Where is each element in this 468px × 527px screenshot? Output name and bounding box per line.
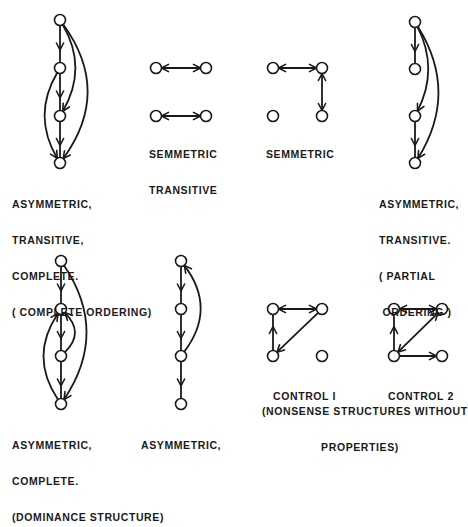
graph-node: [268, 304, 279, 315]
graph-node: [176, 351, 187, 362]
label-line: TRANSITIVE,: [12, 234, 152, 246]
graph-symmetric-transitive: [151, 63, 212, 122]
label-symmetric: SEMMETRIC: [266, 124, 334, 172]
label-line: SEMMETRIC: [266, 148, 334, 160]
graph-node: [410, 111, 421, 122]
graph-node: [317, 111, 328, 122]
label-line: ASYMMETRIC,: [141, 439, 221, 451]
label-complete-ordering: ASYMMETRIC, TRANSITIVE, COMPLETE. ( COMP…: [12, 174, 152, 330]
edge-curve: [63, 24, 87, 158]
graph-node: [410, 158, 421, 169]
graph-node: [317, 63, 328, 74]
caption-line: PROPERTIES): [262, 441, 458, 453]
graph-node: [410, 64, 421, 75]
label-line: ORDERING ): [379, 306, 459, 318]
label-line: TRANSITIVE: [149, 184, 217, 196]
graph-node: [437, 351, 448, 362]
graph-node: [56, 351, 67, 362]
label-line: ASYMMETRIC,: [379, 198, 459, 210]
graph-complete-ordering: [45, 15, 88, 169]
label-line: ( PARTIAL: [379, 270, 459, 282]
graph-node: [410, 17, 421, 28]
graph-node: [151, 63, 162, 74]
graph-node: [55, 111, 66, 122]
label-asymmetric: ASYMMETRIC,: [141, 415, 221, 463]
label-line: SEMMETRIC: [149, 148, 217, 160]
graph-node: [268, 63, 279, 74]
footer-caption: (NONSENSE STRUCTURES WITHOUT PROPERTIES): [262, 381, 458, 465]
graph-node: [56, 399, 67, 410]
graph-node: [55, 15, 66, 26]
graph-node: [151, 111, 162, 122]
graph-control-1: [268, 304, 328, 362]
label-line: TRANSITIVE.: [379, 234, 459, 246]
label-line: ( COMPLETE ORDERING): [12, 306, 152, 318]
caption-line: (NONSENSE STRUCTURES WITHOUT: [262, 405, 458, 417]
graph-partial-ordering: [410, 17, 439, 169]
graph-node: [176, 256, 187, 267]
graph-node: [317, 304, 328, 315]
edge-directed: [277, 313, 318, 352]
graph-node: [55, 158, 66, 169]
graph-node: [176, 399, 187, 410]
graph-node: [317, 351, 328, 362]
label-line: (DOMINANCE STRUCTURE): [12, 511, 164, 523]
label-line: ASYMMETRIC,: [12, 198, 152, 210]
graph-node: [201, 63, 212, 74]
graph-asymmetric: [176, 256, 201, 410]
label-symmetric-transitive: SEMMETRIC TRANSITIVE: [149, 124, 217, 208]
graph-node: [268, 111, 279, 122]
label-partial-ordering: ASYMMETRIC, TRANSITIVE. ( PARTIAL ORDERI…: [379, 174, 459, 330]
graph-node: [176, 304, 187, 315]
graph-node: [55, 63, 66, 74]
graph-symmetric: [268, 63, 328, 122]
label-line: COMPLETE.: [12, 270, 152, 282]
label-line: COMPLETE.: [12, 475, 164, 487]
graph-node: [201, 111, 212, 122]
graph-node: [389, 351, 400, 362]
graph-node: [268, 351, 279, 362]
edge-curve: [418, 27, 439, 159]
